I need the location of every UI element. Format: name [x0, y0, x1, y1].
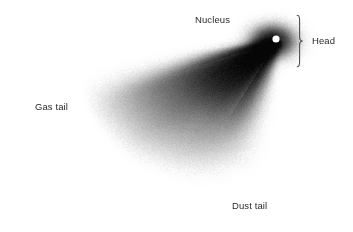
head-bracket-icon: [292, 14, 306, 68]
dust-tail-label: Dust tail: [232, 200, 267, 212]
head-label: Head: [312, 35, 335, 47]
gas-tail-label: Gas tail: [35, 101, 68, 113]
nucleus-label: Nucleus: [195, 14, 230, 26]
comet-diagram-figure: Nucleus Gas tail Dust tail Head: [0, 0, 353, 232]
